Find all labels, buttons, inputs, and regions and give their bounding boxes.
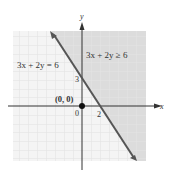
y-axis-arrow-icon [80, 22, 85, 30]
line-equation-label: 3x + 2y = 6 [17, 60, 59, 70]
test-point-label: (0, 0) [55, 94, 74, 104]
y-intercept-label: 3 [75, 75, 79, 84]
region-inequality-label: 3x + 2y ≥ 6 [86, 50, 128, 60]
x-axis-label: x [159, 102, 164, 111]
y-axis-label: y [79, 12, 84, 21]
graph-canvas: y x 3x + 2y = 6 3x + 2y ≥ 6 3 2 0 (0, 0) [0, 0, 173, 177]
x-intercept-label: 2 [97, 110, 101, 119]
test-point [79, 103, 85, 109]
origin-label: 0 [75, 109, 79, 118]
